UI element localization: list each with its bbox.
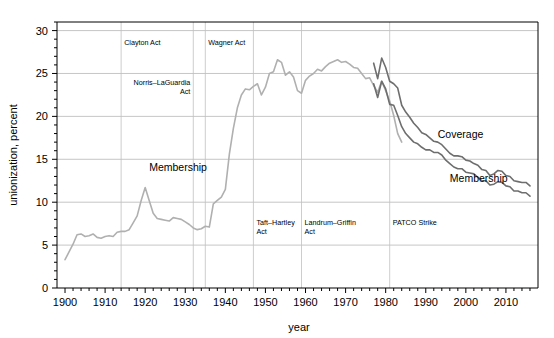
- x-tick-label: 1940: [213, 296, 237, 308]
- x-tick-label: 2010: [494, 296, 518, 308]
- x-tick-label: 1900: [53, 296, 77, 308]
- unionization-chart: 0510152025301900191019201930194019501960…: [0, 0, 554, 338]
- annotation-label: Norris–LaGuardia: [134, 78, 191, 87]
- series-label-membership: Membership: [149, 161, 207, 173]
- annotation-label: PATCO Strike: [393, 218, 437, 227]
- x-tick-label: 1930: [173, 296, 197, 308]
- y-tick-label: 5: [42, 239, 48, 251]
- annotation-label: Landrum–Griffin: [305, 218, 356, 227]
- annotation-label: Taft–Hartley: [256, 218, 295, 227]
- y-tick-label: 0: [42, 282, 48, 294]
- x-tick-label: 1970: [333, 296, 357, 308]
- x-tick-label: 1950: [253, 296, 277, 308]
- x-tick-label: 1910: [93, 296, 117, 308]
- x-tick-label: 2000: [454, 296, 478, 308]
- x-tick-label: 1980: [373, 296, 397, 308]
- annotation-label-line2: Act: [180, 87, 190, 96]
- y-axis-title: unionization, percent: [7, 104, 19, 206]
- x-tick-label: 1960: [293, 296, 317, 308]
- series-label-coverage: Coverage: [438, 128, 484, 140]
- y-tick-label: 30: [36, 25, 48, 37]
- x-tick-label: 1920: [133, 296, 157, 308]
- x-tick-label: 1990: [414, 296, 438, 308]
- annotation-label: Wagner Act: [208, 38, 245, 47]
- y-tick-label: 15: [36, 153, 48, 165]
- chart-svg: 0510152025301900191019201930194019501960…: [0, 0, 554, 338]
- series-label-membership: Membership: [450, 172, 508, 184]
- chart-background: [0, 0, 554, 338]
- y-tick-label: 10: [36, 196, 48, 208]
- y-tick-label: 25: [36, 67, 48, 79]
- annotation-label-line2: Act: [305, 227, 315, 236]
- annotation-label: Clayton Act: [124, 38, 160, 47]
- x-axis-title: year: [288, 321, 310, 333]
- annotation-label-line2: Act: [256, 227, 266, 236]
- y-tick-label: 20: [36, 110, 48, 122]
